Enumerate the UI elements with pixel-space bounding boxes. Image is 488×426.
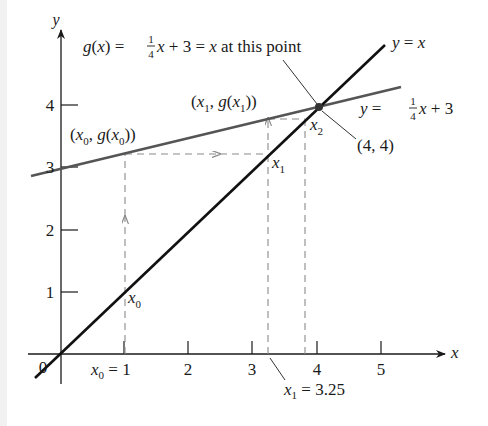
identity-line-label: y = x: [390, 33, 426, 52]
g-label-frac-num: 1: [410, 95, 416, 107]
svg-text:y =: y =: [358, 99, 381, 118]
svg-text:x + 3: x + 3: [418, 99, 453, 118]
x-axis-label: x: [450, 343, 459, 362]
fixed-point-marker: [315, 103, 323, 111]
x0-equals-label: x0 = 1: [90, 360, 131, 381]
point-x0-gx0-label: (x0, g(x0)): [70, 125, 136, 147]
y-tick-2: 2: [46, 221, 55, 240]
svg-text:x + 3 = x at this point: x + 3 = x at this point: [156, 37, 302, 56]
x-ticks: [124, 341, 381, 354]
y-tick-3: 3: [46, 158, 55, 177]
point-x1-gx1-label: (x1, g(x1)): [191, 92, 257, 114]
annotation-frac-num: 1: [148, 33, 154, 45]
y-tick-4: 4: [46, 96, 55, 115]
svg-text:g(x) =: g(x) =: [83, 37, 124, 56]
top-annotation: g(x) = 1 4 x + 3 = x at this point: [83, 33, 302, 60]
g-line-label: y = 1 4 x + 3: [358, 95, 453, 122]
iterate-x2-label: x2: [309, 115, 323, 137]
y-axis-label: y: [50, 11, 60, 29]
fixed-point-diagram: y x 0 1 2 3 4 2 3 4 5 x0 = 1 x1 = 3.25 x…: [0, 0, 488, 426]
annotation-frac-den: 4: [148, 48, 154, 60]
x1-equals-label: x1 = 3.25: [283, 380, 345, 401]
y-tick-1: 1: [46, 283, 55, 302]
iterate-x1-label: x1: [271, 153, 285, 175]
x-tick-2: 2: [184, 360, 193, 379]
fixed-point-label: (4, 4): [357, 136, 394, 155]
origin-label: 0: [39, 358, 48, 377]
x-tick-5: 5: [377, 360, 386, 379]
axes: [28, 30, 445, 384]
x-tick-4: 4: [313, 360, 322, 379]
x-tick-3: 3: [248, 360, 257, 379]
iterate-x0-label: x0: [127, 288, 142, 310]
g-label-frac-den: 4: [410, 110, 416, 122]
